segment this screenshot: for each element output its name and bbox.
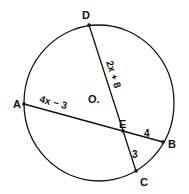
point-b [161, 140, 165, 144]
label-center-o: O. [88, 93, 100, 105]
point-a [22, 102, 26, 106]
label-b: B [168, 138, 176, 150]
chord-ab [24, 104, 163, 142]
label-c: C [140, 176, 148, 188]
label-segment-de: 2x + 8 [104, 59, 123, 90]
label-e: E [119, 118, 126, 130]
circle-chords-diagram: D A E B C O. 2x + 8 4x − 3 4 3 [0, 0, 189, 194]
label-a: A [13, 98, 21, 110]
label-segment-ec: 3 [132, 149, 138, 160]
point-d [87, 23, 91, 27]
label-segment-eb: 4 [144, 128, 150, 139]
label-d: D [82, 9, 90, 21]
point-c [134, 169, 138, 173]
